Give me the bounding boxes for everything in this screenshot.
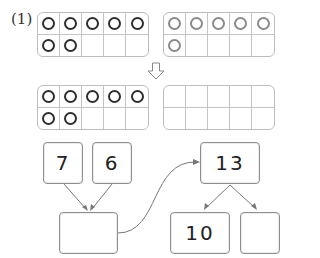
total-box: 13: [200, 142, 260, 184]
ten-frame-bottom-right[interactable]: [163, 85, 275, 130]
ten-frame-cell: [82, 108, 104, 130]
ten-frame-cell: [60, 86, 82, 108]
ten-frame-cell: [38, 108, 60, 130]
addend-box-a: 7: [43, 142, 83, 184]
arrow-6-to-sum: [92, 184, 112, 209]
ten-frame-cell: [208, 86, 230, 108]
counter-circle-icon: [64, 90, 77, 103]
counter-circle-icon: [108, 90, 121, 103]
addend-box-b: 6: [92, 142, 132, 184]
ten-frame-cell: [230, 86, 252, 108]
counter-circle-icon: [42, 90, 55, 103]
ten-frame-cell: [208, 108, 230, 130]
ten-frame-cell: [252, 86, 274, 108]
ten-frame-cell: [186, 86, 208, 108]
ten-frame-cell: [104, 86, 126, 108]
ten-frame-bottom-left: [37, 85, 149, 130]
ten-frame-cell: [60, 108, 82, 130]
ten-frame-cell: [82, 86, 104, 108]
down-arrow-icon: [148, 63, 164, 79]
ten-frame-cell: [126, 108, 148, 130]
ten-frame-cell: [104, 108, 126, 130]
counter-circle-icon: [42, 112, 55, 125]
ten-frame-cell: [186, 108, 208, 130]
ten-frame-cell: [164, 108, 186, 130]
ten-frame-cell: [164, 86, 186, 108]
arrow-13-to-10: [207, 185, 230, 207]
counter-circle-icon: [131, 90, 144, 103]
part-ten-box: 10: [170, 212, 230, 254]
part-rest-answer-box[interactable]: [240, 212, 280, 254]
counter-circle-icon: [86, 90, 99, 103]
ten-frame-cell: [252, 108, 274, 130]
sum-answer-box[interactable]: [59, 212, 118, 254]
ten-frame-cell: [126, 86, 148, 108]
arrow-13-to-rest: [230, 185, 254, 207]
ten-frame-cell: [230, 108, 252, 130]
counter-circle-icon: [64, 112, 77, 125]
arrow-7-to-sum: [64, 184, 86, 209]
ten-frame-cell: [38, 86, 60, 108]
